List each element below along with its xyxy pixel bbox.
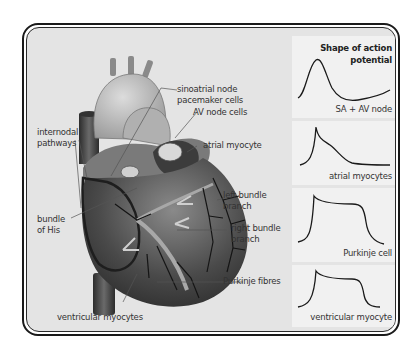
label-line: bundle [37,214,65,225]
label-atrial-myocyte: atrial myocyte [203,140,262,151]
diagram-frame: sinoatrial node pacemaker cells AV node … [22,23,400,336]
label-line: of His [37,225,65,236]
panel-label: atrial myocytes [329,171,392,181]
label-line: pacemaker cells [177,95,243,106]
label-line: pathways [37,138,78,149]
label-av-node: AV node cells [193,107,247,118]
label-line: internodal [37,127,78,138]
panel-atrial-myocytes: atrial myocytes [292,121,396,185]
label-line: left bundle [223,190,266,201]
panel-label: Purkinje cell [343,248,392,258]
label-purkinje-fibres: Purkinje fibres [223,276,281,287]
label-line: sinoatrial node [177,84,243,95]
panel-label: SA + AV node [336,104,393,114]
label-ventricular-myocytes: ventricular myocytes [57,312,143,323]
label-right-bundle-branch: right bundle branch [231,223,280,245]
label-bundle-of-his: bundle of His [37,214,65,236]
panel-ventricular-myocyte: ventricular myocyte [292,265,396,327]
panel-sa-av-node: Shape of action potential SA + AV node [292,36,396,118]
diagram-canvas: sinoatrial node pacemaker cells AV node … [26,27,396,332]
label-internodal-pathways: internodal pathways [37,127,78,149]
label-line: branch [231,234,280,245]
panel-purkinje-cell: Purkinje cell [292,188,396,262]
label-left-bundle-branch: left bundle branch [223,190,266,212]
panel-label: ventricular myocyte [310,312,392,322]
label-line: right bundle [231,223,280,234]
label-line: branch [223,201,266,212]
label-sinoatrial-node: sinoatrial node pacemaker cells [177,84,243,106]
